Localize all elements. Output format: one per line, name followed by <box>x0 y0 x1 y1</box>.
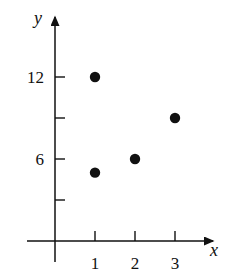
data-point <box>90 167 100 177</box>
y-axis-label: y <box>32 8 42 28</box>
y-tick-label: 6 <box>36 150 45 169</box>
data-point <box>90 72 100 82</box>
data-points <box>90 72 180 178</box>
data-point <box>130 154 140 164</box>
x-axis-label: x <box>209 240 218 260</box>
plot-canvas: 123612 x y <box>0 0 232 280</box>
axes <box>27 17 213 262</box>
x-tick-label: 1 <box>91 254 100 273</box>
x-tick-label: 2 <box>131 254 140 273</box>
tick-marks <box>55 77 175 241</box>
scatter-plot: 123612 x y <box>0 0 232 280</box>
y-tick-label: 12 <box>27 68 44 87</box>
data-point <box>170 113 180 123</box>
tick-labels: 123612 <box>27 68 179 273</box>
x-tick-label: 3 <box>171 254 180 273</box>
